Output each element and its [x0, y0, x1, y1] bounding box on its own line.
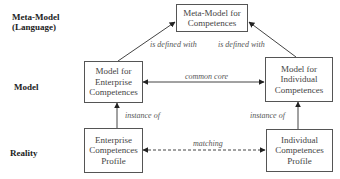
individual-model-box-line1: Model for — [275, 64, 324, 75]
meta-model-box: Meta-Model for Competences — [176, 4, 248, 32]
enterprise-profile-box-line2: Competences — [89, 145, 138, 156]
enterprise-model-box-line3: Competences — [89, 87, 138, 98]
row-label-meta-model-line2: (Language) — [12, 22, 59, 32]
relation-label-enterprise-defined: is defined with — [150, 40, 197, 49]
row-label-model: Model — [14, 82, 39, 92]
enterprise-profile-box-line3: Profile — [89, 156, 138, 167]
enterprise-model-box-line2: Enterprise — [89, 77, 138, 88]
individual-model-box-line3: Competences — [275, 85, 324, 96]
row-label-reality: Reality — [10, 148, 38, 158]
relation-label-individual-defined: is defined with — [218, 40, 265, 49]
enterprise-model-box-line1: Model for — [89, 66, 138, 77]
relation-label-individual-instance: instance of — [250, 111, 285, 120]
individual-model-box-line2: Individual — [275, 74, 324, 85]
relation-label-matching: matching — [193, 139, 223, 148]
individual-model-box: Model for Individual Competences — [265, 57, 333, 102]
row-label-meta-model: Meta-Model (Language) — [12, 12, 59, 32]
individual-profile-box-line1: Individual — [275, 135, 324, 146]
individual-profile-box-line2: Competences — [275, 145, 324, 156]
enterprise-profile-box: Enterprise Competences Profile — [84, 128, 143, 173]
meta-model-box-line1: Meta-Model for — [183, 8, 241, 19]
meta-model-box-line2: Competences — [183, 18, 241, 29]
enterprise-model-box: Model for Enterprise Competences — [84, 61, 143, 103]
relation-label-enterprise-instance: instance of — [125, 111, 160, 120]
individual-profile-box-line3: Profile — [275, 156, 324, 167]
row-label-meta-model-line1: Meta-Model — [12, 12, 59, 22]
individual-profile-box: Individual Competences Profile — [266, 129, 333, 172]
enterprise-profile-box-line1: Enterprise — [89, 135, 138, 146]
relation-label-common-core: common core — [185, 72, 228, 81]
